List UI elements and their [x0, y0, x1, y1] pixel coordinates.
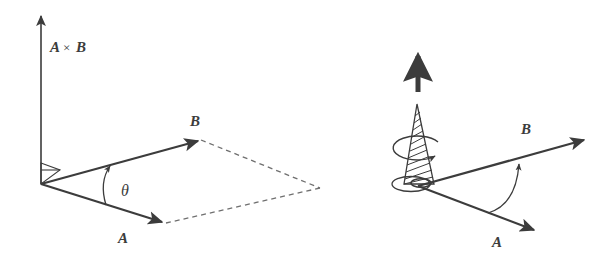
- label-cross-product-b: B: [75, 39, 86, 55]
- label-vector-b-right: B: [520, 121, 531, 137]
- label-cross-product-times: ×: [63, 40, 70, 55]
- figure-root: A × B B A θ: [0, 0, 612, 258]
- cross-product-label-group: A × B: [49, 39, 86, 55]
- label-vector-b-left: B: [189, 113, 200, 129]
- label-vector-a-right: A: [491, 234, 502, 250]
- label-vector-a-left: A: [117, 230, 128, 246]
- cross-product-diagram: A × B B A θ: [0, 0, 612, 258]
- label-cross-product-a: A: [49, 39, 60, 55]
- label-theta: θ: [121, 182, 129, 199]
